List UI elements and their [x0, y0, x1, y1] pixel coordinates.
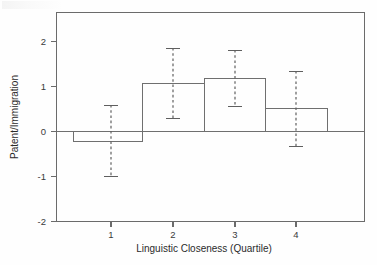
x-tick-label-4: 4 — [293, 229, 298, 240]
x-axis-title: Linguistic Closeness (Quartile) — [136, 243, 272, 254]
bar-quartile-1 — [74, 132, 143, 142]
x-tick-label-3: 3 — [232, 229, 237, 240]
y-tick-label-0: 0 — [41, 126, 46, 137]
y-axis-title: Patent/Immigration — [9, 75, 20, 159]
y-axis-ticks — [51, 42, 56, 222]
x-tick-label-1: 1 — [108, 229, 113, 240]
plot-frame — [57, 13, 365, 222]
y-tick-label-1: 1 — [41, 81, 46, 92]
y-tick-label-neg1: -1 — [38, 171, 46, 182]
bar-chart-with-error-bars: 2 1 0 -1 -2 1 2 3 4 Linguistic Closeness… — [0, 0, 377, 265]
figure-container: 2 1 0 -1 -2 1 2 3 4 Linguistic Closeness… — [0, 0, 377, 265]
x-axis-ticks — [111, 222, 296, 227]
x-tick-label-2: 2 — [170, 229, 175, 240]
y-tick-label-neg2: -2 — [38, 216, 46, 227]
error-bar-quartile-1 — [104, 105, 118, 177]
y-tick-label-2: 2 — [41, 36, 46, 47]
